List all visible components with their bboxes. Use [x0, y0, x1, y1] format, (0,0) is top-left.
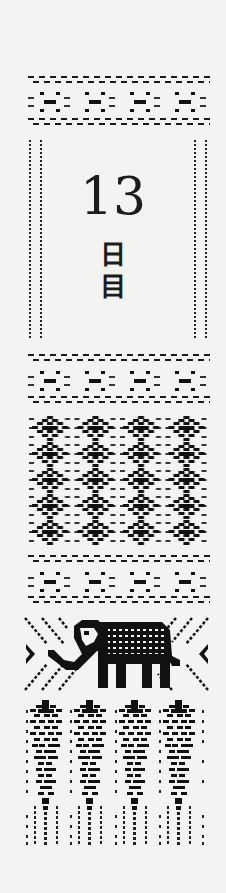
cross-motif-icon [83, 371, 107, 391]
day-suffix-char-1: 日 [0, 240, 226, 270]
lower-dash-stripe-2 [28, 596, 210, 604]
day-suffix-char-2: 目 [0, 272, 226, 302]
lower-cross-band [28, 572, 210, 592]
top-cross-band [28, 92, 210, 112]
tree-fringe-block [24, 700, 206, 850]
tree-motif-icon [115, 700, 151, 845]
cross-motif-icon [128, 92, 152, 112]
tree-motif-icon [26, 700, 62, 845]
cross-motif-icon [38, 572, 62, 592]
middle-cross-band [28, 371, 210, 391]
cross-motif-icon [173, 371, 197, 391]
cross-motif-icon [83, 92, 107, 112]
cross-motif-icon [38, 92, 62, 112]
elephant-panel [22, 616, 212, 694]
cross-motif-icon [128, 371, 152, 391]
cross-motif-icon [173, 572, 197, 592]
diamond-weave-block [27, 416, 209, 546]
cross-motif-icon [38, 371, 62, 391]
top-dash-stripe-1 [28, 76, 210, 84]
day-number: 13 [0, 168, 226, 224]
cross-motif-icon [83, 572, 107, 592]
tree-motif-icon [70, 700, 106, 845]
middle-dash-stripe-2 [28, 396, 210, 404]
lower-dash-stripe-1 [28, 555, 210, 563]
cross-motif-icon [173, 92, 197, 112]
cross-motif-icon [128, 572, 152, 592]
middle-dash-stripe-1 [28, 354, 210, 362]
tree-motif-icon [159, 700, 195, 845]
top-dash-stripe-2 [28, 118, 210, 126]
